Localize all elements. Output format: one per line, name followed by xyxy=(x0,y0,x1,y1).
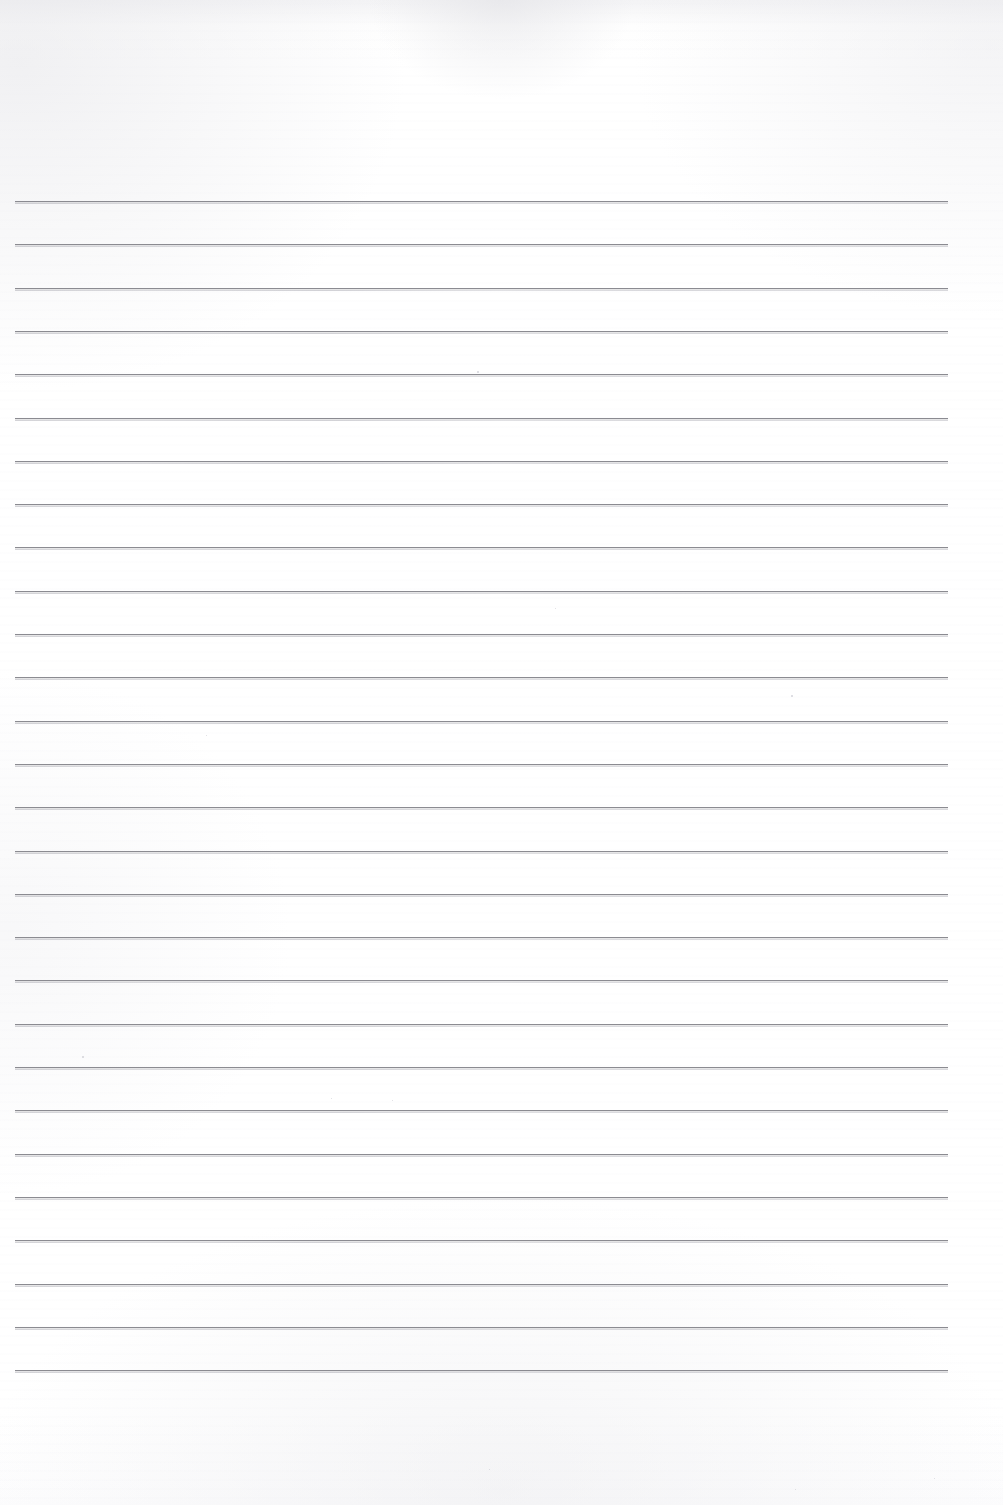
ruled-line xyxy=(15,374,948,375)
ruled-line xyxy=(15,937,948,938)
ruled-line xyxy=(15,721,948,722)
ruled-lines-layer xyxy=(0,0,1003,1505)
ruled-line xyxy=(15,244,948,245)
ruled-line xyxy=(15,1327,948,1328)
ruled-line xyxy=(15,1024,948,1025)
ruled-line xyxy=(15,1284,948,1285)
ruled-line xyxy=(15,894,948,895)
ruled-line xyxy=(15,331,948,332)
ruled-line xyxy=(15,418,948,419)
ruled-line xyxy=(15,461,948,462)
ruled-line xyxy=(15,807,948,808)
scanned-page xyxy=(0,0,1003,1505)
ruled-line xyxy=(15,980,948,981)
ruled-line xyxy=(15,634,948,635)
ruled-line xyxy=(15,677,948,678)
ruled-line xyxy=(15,1370,948,1371)
ruled-line xyxy=(15,1154,948,1155)
ruled-line xyxy=(15,1067,948,1068)
ruled-line xyxy=(15,288,948,289)
ruled-line xyxy=(15,764,948,765)
ruled-line xyxy=(15,201,948,202)
ruled-line xyxy=(15,591,948,592)
ruled-line xyxy=(15,851,948,852)
ruled-line xyxy=(15,504,948,505)
ruled-line xyxy=(15,1240,948,1241)
ruled-line xyxy=(15,547,948,548)
ruled-line xyxy=(15,1197,948,1198)
ruled-line xyxy=(15,1110,948,1111)
